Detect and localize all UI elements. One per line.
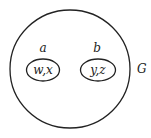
inner-set-a-label: a	[39, 41, 46, 55]
inner-set-b-contents: y,z	[89, 63, 106, 77]
outer-set-label: G	[137, 62, 147, 76]
inner-set-a-contents: w,x	[33, 63, 53, 77]
outer-set-circle	[10, 10, 130, 128]
set-diagram: G a w,x b y,z	[0, 0, 151, 138]
inner-set-b-label: b	[93, 41, 101, 55]
